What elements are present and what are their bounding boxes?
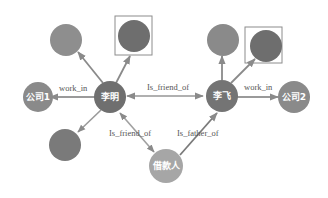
node-borrower[interactable]: 借款人 bbox=[149, 149, 183, 183]
knowledge-graph-diagram: work_in Is_friend_of work_in Is_friend_o… bbox=[0, 0, 328, 198]
edge-label-is-friend-of-1: Is_friend_of bbox=[147, 82, 189, 92]
node-liming-top-right-boxed[interactable] bbox=[118, 20, 150, 52]
node-label-company1: 公司1 bbox=[26, 92, 50, 102]
node-company1[interactable]: 公司1 bbox=[23, 82, 53, 112]
edge-labels: work_in Is_friend_of work_in Is_friend_o… bbox=[59, 82, 273, 138]
edge-label-is-father-of: Is_father_of bbox=[177, 128, 219, 138]
edge-label-is-friend-of-2: Is_friend_of bbox=[109, 128, 151, 138]
edge-label-work-in-1: work_in bbox=[59, 83, 88, 93]
edge-label-work-in-2: work_in bbox=[244, 82, 273, 92]
node-liming[interactable]: 李明 bbox=[94, 81, 126, 113]
edge-liming-bottomleft bbox=[78, 110, 101, 132]
node-company2[interactable]: 公司2 bbox=[278, 81, 310, 113]
node-liming-bottom-left[interactable] bbox=[49, 129, 81, 161]
node-label-liming: 李明 bbox=[100, 91, 119, 102]
node-lifei-top[interactable] bbox=[207, 24, 239, 56]
node-lifei[interactable]: 李飞 bbox=[206, 80, 238, 112]
edges bbox=[50, 52, 278, 155]
nodes: 公司1 李明 李飞 公司2 借款人 bbox=[23, 20, 310, 183]
node-label-borrower: 借款人 bbox=[152, 160, 181, 171]
edge-liming-topright bbox=[116, 56, 130, 83]
node-label-company2: 公司2 bbox=[282, 92, 306, 102]
node-lifei-top-right-boxed[interactable] bbox=[250, 30, 282, 62]
edge-liming-topleft bbox=[78, 52, 103, 83]
node-label-lifei: 李飞 bbox=[212, 90, 231, 101]
node-liming-top-left[interactable] bbox=[50, 24, 82, 56]
